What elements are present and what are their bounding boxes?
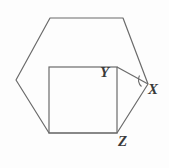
vertex-label-y: Y (100, 65, 109, 80)
vertex-label-x: X (148, 82, 158, 97)
segment-Y-to-X (117, 67, 148, 84)
vertex-label-z: Z (118, 134, 127, 149)
figure-canvas (0, 0, 169, 168)
geometry-figure: X Y Z (0, 0, 169, 168)
hexagon-outline (16, 18, 148, 133)
angle-arc-at-X-icon (138, 76, 141, 87)
